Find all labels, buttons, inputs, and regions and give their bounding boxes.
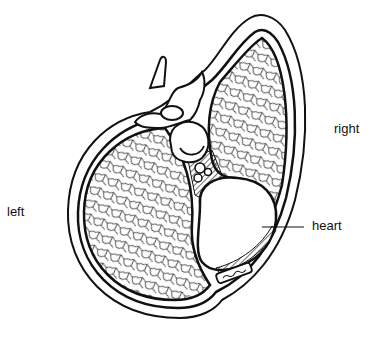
label-left: left [7,204,24,219]
thorax-cross-section-diagram [0,0,373,338]
label-heart: heart [312,218,342,233]
vessel [205,169,212,176]
spinal-canal [161,106,183,120]
aorta [194,174,202,182]
vertebral-body [170,122,208,162]
esophagus [195,163,205,173]
label-right: right [334,121,359,136]
